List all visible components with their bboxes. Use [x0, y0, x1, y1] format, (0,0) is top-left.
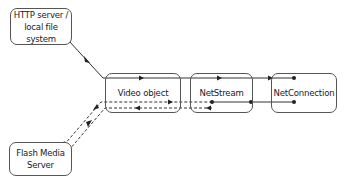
edge-http-to-video [67, 39, 103, 78]
node-netconnection: NetConnection [271, 73, 337, 113]
node-video-object: Video object [105, 73, 181, 113]
node-video-object-label: Video object [118, 87, 169, 99]
node-netstream-label: NetStream [199, 87, 243, 99]
node-flash-media-server-label: Flash Media Server [16, 147, 65, 171]
node-netconnection-label: NetConnection [274, 87, 335, 99]
node-netstream: NetStream [190, 73, 253, 113]
node-flash-media-server: Flash Media Server [9, 142, 72, 176]
node-http-server-label: HTTP server / local file system [11, 9, 71, 45]
node-http-server: HTTP server / local file system [10, 8, 72, 45]
